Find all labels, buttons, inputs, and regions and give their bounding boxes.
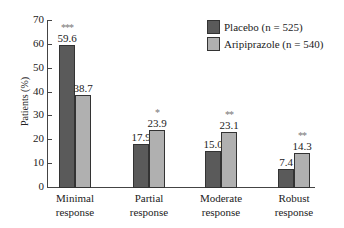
category-label: Minimalresponse: [40, 191, 110, 219]
value-label: 23.1: [214, 120, 244, 131]
y-tick: [47, 68, 52, 69]
legend-label: Placebo (n = 525): [224, 20, 303, 34]
category-label-line: Moderate: [186, 191, 256, 205]
bar-aripiprazole: [75, 95, 91, 188]
legend-swatch-aripiprazole: [207, 37, 220, 51]
bar-aripiprazole: [149, 130, 165, 188]
y-tick-label: 60: [24, 38, 44, 49]
y-tick: [47, 115, 52, 116]
category-label-line: response: [259, 205, 329, 219]
bar-aripiprazole: [221, 132, 237, 188]
y-axis: [47, 20, 48, 187]
y-tick-label: 10: [24, 157, 44, 168]
value-label: 14.3: [287, 141, 317, 152]
y-tick-label: 50: [24, 62, 44, 73]
y-tick: [47, 92, 52, 93]
y-tick-label: 40: [24, 86, 44, 97]
category-label-line: response: [114, 205, 184, 219]
category-label-line: response: [40, 205, 110, 219]
y-tick: [47, 139, 52, 140]
y-tick: [47, 163, 52, 164]
bar-aripiprazole: [294, 153, 310, 188]
category-label: Robustresponse: [259, 191, 329, 219]
y-tick: [47, 44, 52, 45]
category-label-line: Minimal: [40, 191, 110, 205]
y-tick-label: 30: [24, 109, 44, 120]
bar-placebo: [59, 45, 75, 188]
value-label: 59.6: [52, 33, 82, 44]
category-label-line: response: [186, 205, 256, 219]
bar-placebo: [278, 169, 294, 188]
value-label: 38.7: [68, 83, 98, 94]
y-tick: [47, 187, 52, 188]
significance-marker: **: [214, 110, 244, 120]
category-label-line: Robust: [259, 191, 329, 205]
category-label: Partialresponse: [114, 191, 184, 219]
y-tick: [47, 20, 52, 21]
bar-placebo: [205, 151, 221, 188]
y-tick-label: 20: [24, 133, 44, 144]
significance-marker: **: [287, 131, 317, 141]
category-label-line: Partial: [114, 191, 184, 205]
value-label: 23.9: [142, 118, 172, 129]
legend-swatch-placebo: [207, 20, 220, 34]
significance-marker: ***: [52, 23, 82, 33]
bar-placebo: [133, 144, 149, 188]
significance-marker: *: [142, 108, 172, 118]
y-tick-label: 70: [24, 14, 44, 25]
legend-label: Aripiprazole (n = 540): [224, 37, 323, 51]
category-label: Moderateresponse: [186, 191, 256, 219]
y-axis-label: Patients (%): [19, 72, 30, 132]
